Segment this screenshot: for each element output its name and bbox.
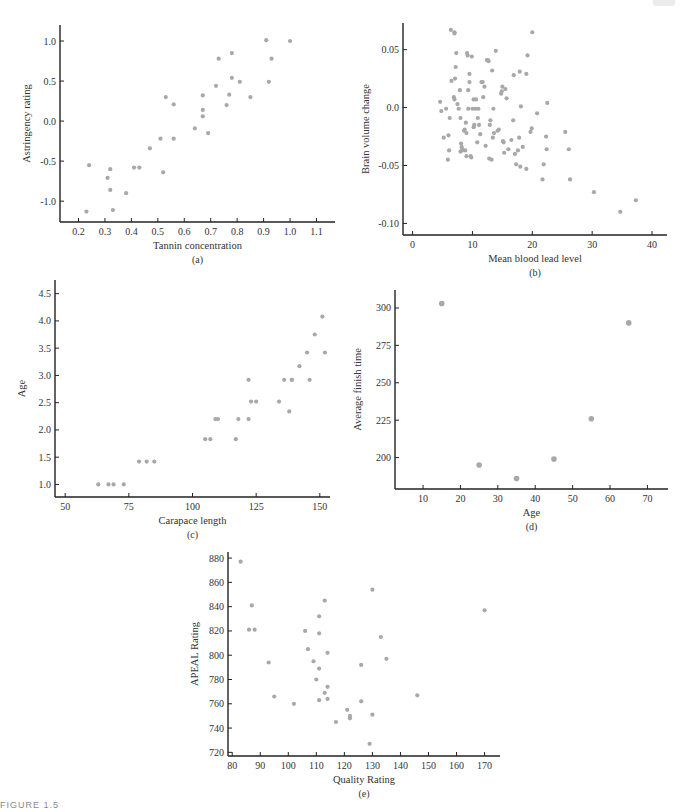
y-tick-label: 1.0 (44, 36, 57, 47)
data-point (502, 151, 506, 155)
data-point (454, 65, 458, 69)
data-point (516, 148, 520, 152)
data-point (384, 657, 388, 661)
data-point (317, 698, 321, 702)
data-point (524, 72, 528, 76)
data-point (491, 136, 495, 140)
data-point (589, 416, 595, 422)
data-point (448, 116, 452, 120)
y-tick-label: 0.5 (44, 76, 57, 87)
data-point (288, 39, 292, 43)
data-point (514, 162, 518, 166)
panel-label: (e) (358, 788, 369, 800)
data-point (452, 97, 456, 101)
data-point (488, 118, 492, 122)
x-axis-label: Mean blood lead level (488, 253, 582, 264)
data-point (458, 88, 462, 92)
y-tick-label: 0.05 (382, 44, 400, 55)
x-tick-label: 0.7 (204, 226, 217, 237)
y-tick-label: 840 (209, 601, 224, 612)
data-point (447, 148, 451, 152)
data-point (545, 101, 549, 105)
data-point (511, 118, 515, 122)
data-point (234, 437, 238, 441)
data-point (517, 136, 521, 140)
data-point (158, 137, 162, 141)
data-point (317, 614, 321, 618)
data-point (379, 635, 383, 639)
y-axis-label: Average finish time (352, 348, 363, 431)
x-tick-label: 75 (124, 501, 134, 512)
x-tick-label: 0.3 (99, 226, 112, 237)
data-point (323, 598, 327, 602)
x-tick-label: 140 (393, 760, 408, 771)
y-tick-label: 300 (376, 302, 391, 313)
data-point (308, 378, 312, 382)
y-tick-label: 4.5 (39, 288, 52, 299)
data-point (544, 134, 548, 138)
data-point (230, 51, 234, 55)
data-point (311, 659, 315, 663)
data-point (325, 697, 329, 701)
data-point (518, 70, 522, 74)
data-point (84, 209, 88, 213)
data-point (535, 111, 539, 115)
x-tick-label: 1.0 (284, 226, 297, 237)
x-tick-label: 50 (60, 501, 70, 512)
data-point (592, 190, 596, 194)
data-point (634, 198, 638, 202)
data-point (208, 437, 212, 441)
data-point (500, 89, 504, 93)
data-point (519, 104, 523, 108)
data-point (476, 116, 480, 120)
y-tick-label: 250 (376, 377, 391, 388)
data-point (201, 114, 205, 118)
data-point (172, 102, 176, 106)
x-tick-label: 0.9 (257, 226, 270, 237)
y-tick-label: 200 (376, 452, 391, 463)
data-point (108, 167, 112, 171)
y-tick-label: 2.0 (39, 424, 52, 435)
y-axis-label: Age (16, 379, 27, 397)
y-tick-label: 3.0 (39, 370, 52, 381)
x-tick-label: 0.8 (231, 226, 244, 237)
data-point (368, 742, 372, 746)
data-point (485, 58, 489, 62)
data-point (325, 651, 329, 655)
data-point (514, 476, 520, 482)
data-point (264, 38, 268, 42)
data-point (246, 378, 250, 382)
data-point (87, 163, 91, 167)
data-point (111, 208, 115, 212)
data-point (470, 54, 474, 58)
data-point (313, 332, 317, 336)
y-tick-label: 860 (209, 577, 224, 588)
y-tick-label: 2.5 (39, 397, 52, 408)
data-point (530, 30, 534, 34)
data-point (320, 314, 324, 318)
data-point (305, 350, 309, 354)
x-axis-label: Carapace length (159, 515, 228, 526)
x-tick-label: 30 (493, 493, 503, 504)
data-point (323, 350, 327, 354)
x-tick-label: 170 (477, 760, 492, 771)
data-point (217, 57, 221, 61)
data-point (490, 68, 494, 72)
data-point (477, 123, 481, 127)
data-point (248, 95, 252, 99)
x-tick-label: 90 (255, 760, 265, 771)
data-point (370, 588, 374, 592)
data-point (224, 103, 228, 107)
data-point (525, 53, 529, 57)
data-point (227, 93, 231, 97)
data-point (475, 140, 479, 144)
data-point (449, 79, 453, 83)
data-point (282, 378, 286, 382)
x-tick-label: 20 (455, 493, 465, 504)
data-point (476, 462, 482, 468)
data-point (466, 53, 470, 57)
data-point (250, 603, 254, 607)
y-tick-label: -0.05 (378, 160, 399, 171)
x-tick-label: 40 (647, 239, 657, 250)
data-point (626, 320, 632, 326)
